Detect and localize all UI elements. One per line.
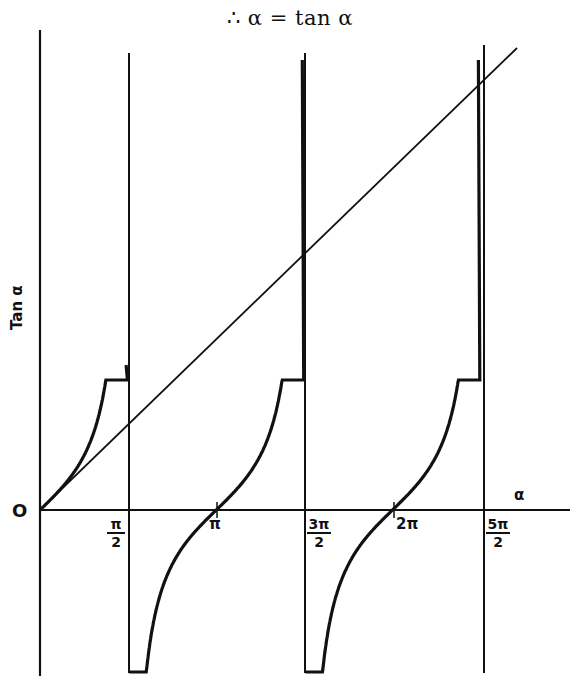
tick-label-3pi-half-den: 2	[307, 534, 331, 550]
tick-label-pi-half-num: π	[107, 516, 125, 534]
tan-curve-branch-2	[129, 60, 304, 672]
tick-label-5pi-half-num: 5π	[486, 516, 510, 534]
tick-label-pi-half-den: 2	[107, 534, 125, 550]
tick-label-5pi-half-den: 2	[486, 534, 510, 550]
plot-area	[0, 0, 580, 696]
tick-label-3pi-half-num: 3π	[307, 516, 331, 534]
x-axis-label: α	[514, 486, 524, 504]
tick-label-3pi-half: 3π 2	[307, 516, 331, 550]
line-y-equals-alpha	[40, 48, 517, 510]
tick-label-2pi: 2π	[396, 515, 418, 533]
tick-label-5pi-half: 5π 2	[486, 516, 510, 550]
tick-label-pi: π	[209, 515, 221, 533]
y-axis-label: Tan α	[8, 285, 26, 330]
tan-curve-branch-3	[305, 60, 479, 672]
origin-label: O	[12, 500, 27, 521]
tick-label-pi-half: π 2	[107, 516, 125, 550]
